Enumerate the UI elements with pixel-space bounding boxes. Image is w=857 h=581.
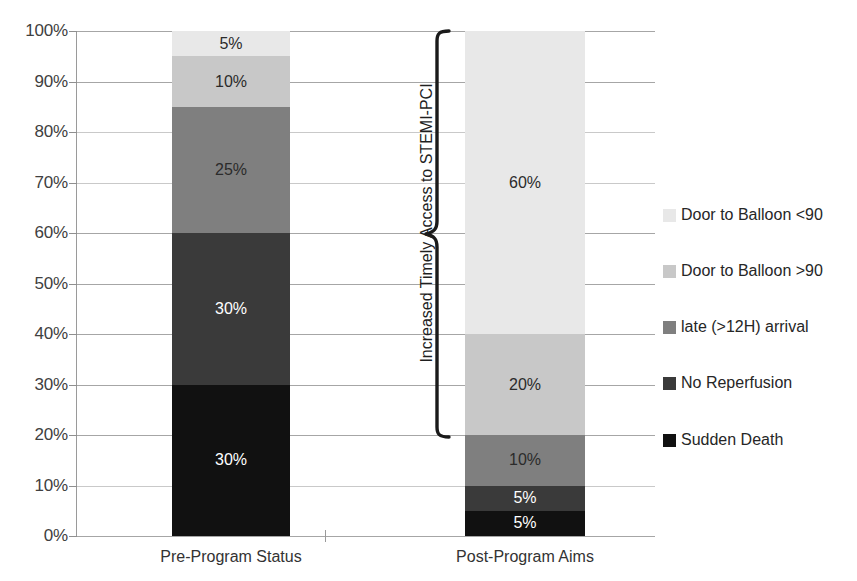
legend-item[interactable]: Door to Balloon >90	[663, 262, 823, 280]
bar-segment-label: 30%	[215, 300, 247, 318]
y-axis-tick	[69, 284, 77, 285]
legend-item-label: No Reperfusion	[681, 374, 792, 392]
legend-item-label: Sudden Death	[681, 431, 783, 449]
legend-color-swatch	[663, 321, 676, 334]
brace-annotation: Increased Timely Access to STEMI-PCI	[376, 25, 466, 445]
y-axis-tick	[69, 486, 77, 487]
category-axis-tick	[325, 530, 326, 542]
y-axis-tick-label: 100%	[6, 21, 68, 41]
legend-color-swatch	[663, 434, 676, 447]
stacked-bar[interactable]: 60%20%10%5%5%	[465, 31, 585, 536]
legend-item-label: Door to Balloon <90	[681, 206, 823, 224]
y-axis-tick-label: 60%	[6, 223, 68, 243]
y-axis-tick-label: 10%	[6, 476, 68, 496]
bar-segment[interactable]: 30%	[172, 233, 290, 385]
bar-segment-label: 5%	[219, 35, 242, 53]
y-axis-tick-label: 70%	[6, 173, 68, 193]
y-axis-tick-label: 50%	[6, 274, 68, 294]
gridline	[76, 536, 655, 537]
y-axis-tick-label: 0%	[6, 526, 68, 546]
plot-area: 5%10%25%30%30%60%20%10%5%5%	[76, 31, 655, 536]
bar-segment-label: 5%	[513, 514, 536, 532]
y-axis-tick-label: 90%	[6, 72, 68, 92]
bar-segment[interactable]: 60%	[465, 31, 585, 334]
y-axis-tick	[69, 82, 77, 83]
legend-item[interactable]: Sudden Death	[663, 431, 783, 449]
category-label: Post-Program Aims	[456, 548, 594, 566]
y-axis-tick	[69, 385, 77, 386]
y-axis-tick	[69, 435, 77, 436]
bar-segment[interactable]: 5%	[465, 486, 585, 511]
bar-segment-label: 20%	[509, 376, 541, 394]
bar-segment[interactable]: 5%	[465, 511, 585, 536]
legend-item[interactable]: No Reperfusion	[663, 374, 792, 392]
legend-item[interactable]: Door to Balloon <90	[663, 206, 823, 224]
legend-color-swatch	[663, 377, 676, 390]
legend-color-swatch	[663, 209, 676, 222]
y-axis-tick	[69, 132, 77, 133]
stacked-bar[interactable]: 5%10%25%30%30%	[172, 31, 290, 536]
y-axis-tick	[69, 31, 77, 32]
y-axis-tick	[69, 536, 77, 537]
y-axis-tick	[69, 183, 77, 184]
legend-item[interactable]: late (>12H) arrival	[663, 318, 809, 336]
legend-color-swatch	[663, 265, 676, 278]
y-axis-tick-label: 40%	[6, 324, 68, 344]
y-axis-tick-label: 30%	[6, 375, 68, 395]
bar-segment[interactable]: 10%	[465, 435, 585, 486]
legend-item-label: Door to Balloon >90	[681, 262, 823, 280]
bar-segment[interactable]: 25%	[172, 107, 290, 233]
bar-segment-label: 25%	[215, 161, 247, 179]
bar-segment-label: 10%	[509, 451, 541, 469]
y-axis-tick-label: 80%	[6, 122, 68, 142]
bar-segment[interactable]: 30%	[172, 385, 290, 537]
bar-segment-label: 60%	[509, 174, 541, 192]
legend-item-label: late (>12H) arrival	[681, 318, 809, 336]
brace-annotation-label: Increased Timely Access to STEMI-PCI	[418, 18, 436, 428]
bar-segment-label: 30%	[215, 451, 247, 469]
bar-segment[interactable]: 5%	[172, 31, 290, 56]
y-axis-labels: 100%90%80%70%60%50%40%30%20%10%0%	[0, 0, 68, 581]
chart-screenshot: 100%90%80%70%60%50%40%30%20%10%0% 5%10%2…	[0, 0, 857, 581]
bar-segment-label: 5%	[513, 489, 536, 507]
y-axis-tick	[69, 233, 77, 234]
bar-segment[interactable]: 20%	[465, 334, 585, 435]
y-axis-tick-label: 20%	[6, 425, 68, 445]
bar-segment[interactable]: 10%	[172, 56, 290, 107]
category-label: Pre-Program Status	[160, 548, 301, 566]
y-axis-tick	[69, 334, 77, 335]
bar-segment-label: 10%	[215, 73, 247, 91]
